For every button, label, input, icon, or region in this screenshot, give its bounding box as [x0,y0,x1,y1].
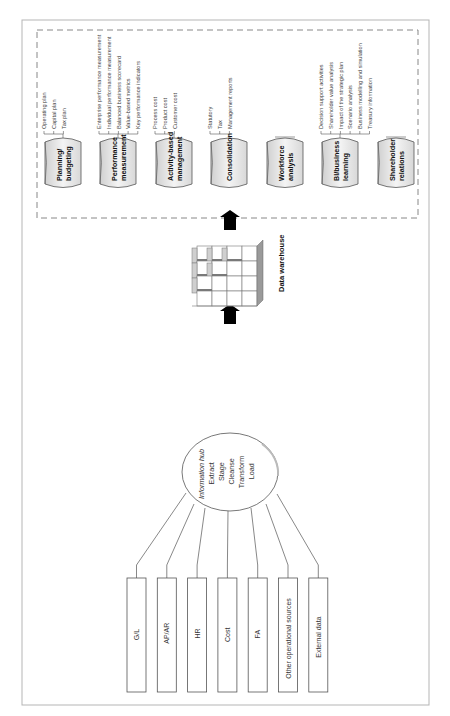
source-label: Other operational sources [285,598,293,679]
application-detail: Individual performance measurement [106,36,112,129]
application-cylinder: Planning/budgetingOperating planCapital … [41,92,81,187]
source-box: G/L [127,493,186,692]
application-detail: Operating plan [41,92,47,129]
application-name: Performance [110,137,119,181]
connector-line [197,508,205,578]
source-label: External data [315,616,322,657]
application-cylinder: Activity-basedmanagementProcess costProd… [152,92,192,187]
application-name: Activity-based [166,132,175,181]
application-name: BI/business [332,141,341,181]
application-detail: Treasury information [367,78,373,129]
application-detail: Tax [217,120,223,129]
sources-group: G/LAP/ARHRCostFAOther operational source… [127,493,328,692]
application-detail: Impact of the strategic plan [338,62,344,129]
hub-step: Extract [207,462,216,484]
source-label: Cost [224,628,231,642]
source-box: Cost [218,511,237,692]
application-cylinder: Shareholderrelations [378,137,414,188]
application-name: analysis [286,153,295,181]
detail-bracket [321,131,370,138]
connector-line [137,493,187,578]
applications-group: Planning/budgetingOperating planCapital … [41,34,414,187]
diagram-canvas: Planning/budgetingOperating planCapital … [0,0,450,716]
source-box: HR [188,508,207,692]
application-name: Consolidation [225,133,234,181]
application-detail: Key performance indicators [135,61,141,129]
source-label: FA [254,630,261,639]
application-detail: Statutory [207,106,213,129]
detail-bracket [44,131,63,138]
application-detail: Customer cost [172,92,178,129]
source-box: Other operational sources [266,504,298,692]
information-hub: Information hubExtractStageCleanseTransf… [182,433,278,511]
application-name: management [175,136,184,181]
application-name: Shareholder [388,139,397,181]
hub-title: Information hub [197,449,206,499]
connector-line [227,511,228,578]
source-label: G/L [133,629,140,640]
application-detail: Enterprise performance measurement [96,34,102,129]
application-detail: Process cost [152,97,158,129]
application-detail: Shareholder value analysis [328,62,334,129]
application-name: learning [341,153,350,181]
hub-step: Stage [217,462,226,481]
application-detail: Value-based metrics [125,78,131,129]
hub-step: Transform [237,456,246,488]
application-detail: Management reports [227,77,233,129]
application-detail: Decision support activities [318,64,324,129]
application-name: budgeting [64,146,73,181]
application-cylinder: Workforceanalysis [267,137,303,188]
data-warehouse-cube-icon [192,240,263,306]
application-detail: Capital plan [51,99,57,129]
flow-group: Data warehouseInformation hubExtractStag… [182,210,286,511]
application-name: Planning/ [55,149,64,181]
connector-line [277,494,318,578]
source-label: AP/AR [163,623,170,644]
application-cylinder: PerformancemeasurementEnterprise perform… [96,34,141,187]
arrow-up-icon [220,210,240,230]
application-cylinder: BI/businesslearningDecision support acti… [318,43,373,187]
source-box: FA [248,508,267,692]
application-name: relations [397,151,406,181]
connector-line [251,508,258,578]
application-detail: Scenario analysis [347,85,353,129]
application-detail: Business modelling and simulation [357,43,363,129]
arrow-up-icon [220,304,240,324]
application-detail: Balanced business scorecard [116,56,122,129]
source-label: HR [194,628,201,638]
application-detail: Tax plan [61,108,67,129]
hub-step: Load [247,463,256,479]
data-warehouse-label: Data warehouse [277,234,286,292]
hub-step: Cleanse [227,458,236,484]
connector-line [266,504,288,578]
application-name: Workforce [277,146,286,181]
application-name: measurement [119,134,128,181]
application-detail: Product cost [162,97,168,129]
application-cylinder: ConsolidationStatutoryTaxManagement repo… [207,77,247,187]
